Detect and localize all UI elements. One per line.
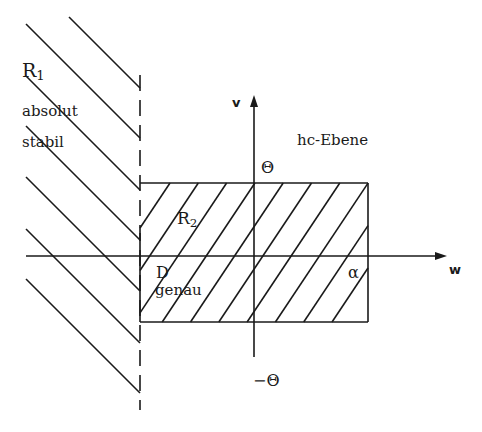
label-theta-top: Θ (261, 160, 274, 176)
label-r1: R1 (22, 61, 45, 83)
coordinate-axes (26, 95, 447, 357)
label-absolut: absolut (22, 104, 78, 119)
label-stabil: stabil (22, 135, 64, 150)
label-r2: R2 (177, 210, 197, 230)
label-d: D (156, 265, 169, 281)
label-theta-bottom: −Θ (253, 373, 280, 389)
label-w-axis: w (449, 263, 461, 276)
label-hc-ebene: hc-Ebene (297, 133, 368, 148)
label-v-axis: v (232, 96, 240, 109)
stability-region-diagram (0, 0, 482, 432)
label-alpha: α (348, 265, 359, 281)
label-genau: genau (155, 283, 202, 298)
